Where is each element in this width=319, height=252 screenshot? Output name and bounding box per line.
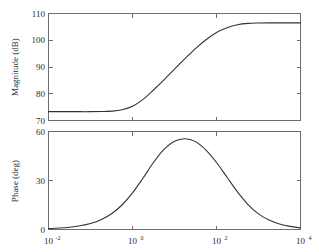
svg-text:2: 2 <box>225 235 228 241</box>
magnitude-axes-frame <box>49 14 301 121</box>
phase-ytick-label-0: 0 <box>41 225 46 235</box>
magnitude-axis-title: Magnitude (dB) <box>10 38 20 96</box>
bode-plot-figure: 110 100 90 80 70 Magnitude (dB) <box>0 0 319 252</box>
svg-text:0: 0 <box>141 235 144 241</box>
phase-ytick-label-30: 30 <box>36 176 46 186</box>
phase-curve <box>49 139 301 229</box>
magnitude-ytick-label-80: 80 <box>36 89 46 99</box>
svg-text:-2: -2 <box>56 235 61 241</box>
magnitude-ytick-label-90: 90 <box>36 62 46 72</box>
magnitude-ytick-label-100: 100 <box>32 35 46 45</box>
phase-axis-title: Phase (deg) <box>10 160 20 202</box>
svg-text:4: 4 <box>309 235 312 241</box>
svg-text:10: 10 <box>44 236 54 246</box>
magnitude-subplot: 110 100 90 80 70 Magnitude (dB) <box>10 9 301 126</box>
svg-text:10: 10 <box>296 236 306 246</box>
phase-ytick-labels: 60 30 0 <box>36 127 46 235</box>
magnitude-curve <box>49 23 301 112</box>
x-axis-tick-labels: 10 -2 10 0 10 2 10 4 <box>44 235 312 246</box>
phase-x-ticks <box>133 132 217 230</box>
svg-text:10: 10 <box>128 236 138 246</box>
magnitude-y-ticks <box>49 14 301 121</box>
xtick-label-1e-2: 10 -2 <box>44 235 61 246</box>
magnitude-x-ticks <box>49 14 217 121</box>
magnitude-ytick-label-110: 110 <box>32 9 46 19</box>
phase-subplot: 60 30 0 Phase (deg) <box>10 127 301 235</box>
magnitude-ytick-labels: 110 100 90 80 70 <box>32 9 46 126</box>
xtick-label-1e4: 10 4 <box>296 235 312 246</box>
svg-text:10: 10 <box>212 236 222 246</box>
xtick-label-1e0: 10 0 <box>128 235 144 246</box>
phase-y-ticks <box>49 132 301 230</box>
bode-plot-canvas: 110 100 90 80 70 Magnitude (dB) <box>0 0 319 252</box>
magnitude-ytick-label-70: 70 <box>36 116 46 126</box>
phase-ytick-label-60: 60 <box>36 127 46 137</box>
phase-axes-frame <box>49 132 301 230</box>
xtick-label-1e2: 10 2 <box>212 235 228 246</box>
